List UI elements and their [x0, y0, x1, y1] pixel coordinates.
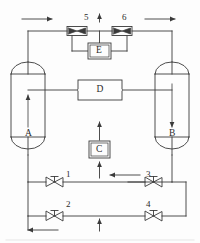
- label-valve-5: 5: [84, 13, 89, 22]
- label-unit-d: D: [97, 85, 104, 95]
- label-unit-c: C: [96, 145, 102, 155]
- label-valve-4: 4: [146, 200, 151, 209]
- diagram-canvas: A B C D E 1 2 3 4 5 6: [0, 0, 200, 243]
- label-valve-2: 2: [66, 200, 71, 209]
- valve-6-bowtie: [114, 28, 131, 34]
- label-unit-e: E: [96, 46, 102, 56]
- valve-5-bowtie: [69, 28, 86, 34]
- label-vessel-b: B: [169, 129, 175, 139]
- label-valve-6: 6: [122, 13, 127, 22]
- label-valve-3: 3: [146, 170, 151, 179]
- label-vessel-a: A: [25, 129, 32, 139]
- label-valve-1: 1: [66, 170, 71, 179]
- process-flow-diagram: [0, 0, 200, 243]
